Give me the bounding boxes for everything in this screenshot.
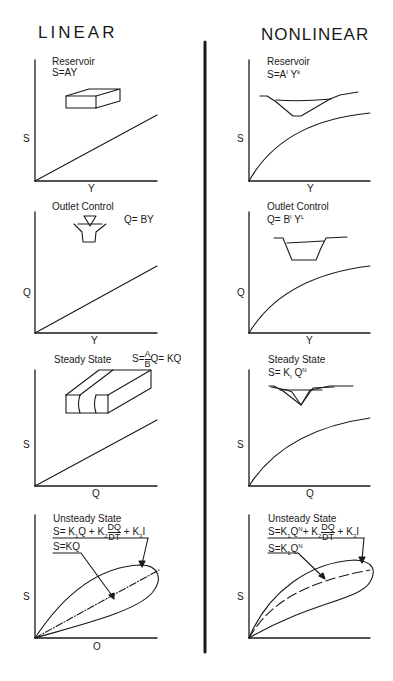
hysteresis-loop bbox=[35, 565, 158, 638]
concave-curve bbox=[249, 266, 370, 333]
nonlinear-reservoir-y-label: S bbox=[237, 133, 244, 144]
nonlinear-steady-y-label: S bbox=[237, 439, 244, 450]
eq-term: Q bbox=[292, 367, 303, 378]
fraction-denominator: DT bbox=[321, 533, 335, 542]
linear-steady-x-label: Q bbox=[92, 488, 100, 499]
linear-unsteady-callout: S=KQ bbox=[53, 541, 80, 552]
curved-hysteresis-loop bbox=[249, 560, 373, 638]
linear-steady-y-label: S bbox=[23, 439, 30, 450]
eq-prefix: S= bbox=[132, 353, 145, 364]
linear-steady-equation: S=ABQ= KQ bbox=[132, 350, 181, 369]
linear-reservoir-y-label: S bbox=[23, 133, 30, 144]
concave-curve bbox=[249, 113, 370, 181]
valley-illustration bbox=[260, 92, 358, 116]
linear-header: LINEAR bbox=[38, 24, 117, 42]
linear-outlet-plot bbox=[35, 212, 157, 333]
eq-term: + K bbox=[121, 526, 139, 537]
nonlinear-steady-title: Steady State bbox=[268, 354, 325, 365]
linear-curve bbox=[35, 115, 157, 181]
eq-suffix: Q= KQ bbox=[151, 353, 182, 364]
fraction-denominator: DT bbox=[108, 533, 122, 542]
eq-term: + K bbox=[303, 526, 318, 537]
eq-term: Y bbox=[288, 69, 297, 80]
linear-unsteady-y-label: S bbox=[23, 591, 30, 602]
nonlinear-steady-x-label: Q bbox=[306, 488, 314, 499]
linear-reservoir-title: Reservoir bbox=[52, 56, 95, 67]
eq-term: + K bbox=[335, 526, 353, 537]
nonlinear-outlet-y-label: Q bbox=[237, 287, 245, 298]
linear-curve bbox=[35, 420, 157, 486]
concave-curve bbox=[249, 418, 370, 486]
eq-term: Q= B bbox=[267, 214, 290, 225]
nonlinear-outlet-title: Outlet Control bbox=[267, 201, 329, 212]
eq-term: I bbox=[142, 526, 145, 537]
eq-term: Q + K bbox=[78, 526, 104, 537]
nonlinear-unsteady-y-label: S bbox=[237, 591, 244, 602]
nonlinear-unsteady-callout: S=K1QN bbox=[268, 541, 303, 559]
linear-outlet-title: Outlet Control bbox=[52, 201, 114, 212]
eq-term: Y bbox=[292, 214, 301, 225]
channel-box-illustration bbox=[66, 370, 151, 413]
eq-superscript: N bbox=[302, 367, 306, 373]
linear-curve bbox=[35, 266, 157, 333]
eq-term: S=K bbox=[268, 543, 287, 554]
nonlinear-reservoir-title: Reservoir bbox=[267, 56, 310, 67]
trapezoid-channel-illustration bbox=[274, 237, 347, 260]
nonlinear-reservoir-x-label: Y bbox=[307, 183, 314, 194]
box-illustration bbox=[66, 89, 120, 108]
dash-dot-center-line bbox=[35, 570, 159, 638]
nonlinear-steady-equation: S= KI QN bbox=[268, 365, 307, 383]
linear-unsteady-equation: S= K1Q + K2DQDT + K3I bbox=[53, 523, 145, 542]
eq-term: S= K bbox=[53, 526, 75, 537]
linear-reservoir-equation: S=AY bbox=[52, 67, 77, 78]
nonlinear-outlet-plot bbox=[249, 212, 370, 333]
eq-superscript: L bbox=[301, 214, 304, 220]
compound-channel-illustration bbox=[269, 386, 353, 405]
linear-steady-title: Steady State bbox=[54, 354, 111, 365]
nonlinear-unsteady-equation: S=K1QN+ K2DQDT + K3I bbox=[268, 523, 359, 542]
eq-term: I bbox=[356, 526, 359, 537]
diagram-canvas bbox=[0, 0, 393, 681]
linear-steady-plot bbox=[35, 370, 157, 486]
linear-reservoir-plot bbox=[35, 60, 157, 181]
eq-term: S= K bbox=[268, 367, 290, 378]
eq-term: S=A bbox=[267, 69, 286, 80]
weir-illustration bbox=[74, 216, 106, 242]
eq-term: S=K bbox=[268, 526, 287, 537]
fraction: DQDT bbox=[321, 523, 335, 542]
eq-superscript: k bbox=[297, 69, 300, 75]
linear-outlet-y-label: Q bbox=[23, 287, 31, 298]
nonlinear-header: NONLINEAR bbox=[261, 26, 369, 44]
linear-reservoir-x-label: Y bbox=[88, 183, 95, 194]
nonlinear-outlet-equation: Q= BI YL bbox=[267, 212, 304, 225]
linear-outlet-equation: Q= BY bbox=[124, 214, 154, 225]
linear-unsteady-x-label: O bbox=[93, 641, 101, 652]
fraction: DQDT bbox=[108, 523, 122, 542]
nonlinear-reservoir-equation: S=AI Yk bbox=[267, 67, 300, 80]
linear-outlet-x-label: Y bbox=[91, 335, 98, 346]
nonlinear-steady-plot bbox=[249, 370, 370, 486]
callout-line bbox=[53, 553, 113, 597]
eq-superscript: N bbox=[298, 543, 302, 549]
nonlinear-outlet-x-label: Y bbox=[306, 335, 313, 346]
